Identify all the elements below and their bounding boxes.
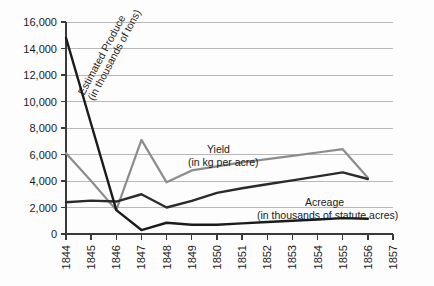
annotation-estimated-produce: Estimated Produce(in thousands of tons) bbox=[75, 2, 143, 102]
x-tick-label: 1847 bbox=[135, 245, 147, 269]
annotation-acreage-title: Acreage bbox=[305, 196, 344, 208]
annotation-yield-title: Yield bbox=[207, 143, 230, 155]
x-tick-label: 1853 bbox=[286, 245, 298, 269]
x-tick-label: 1849 bbox=[186, 245, 198, 269]
line-chart: 02,0004,0006,0008,00010,00012,00014,0001… bbox=[0, 0, 434, 286]
x-tick-label: 1844 bbox=[60, 245, 72, 269]
y-tick-label: 4,000 bbox=[29, 175, 57, 187]
y-tick-label: 2,000 bbox=[29, 202, 57, 214]
x-tick-label: 1850 bbox=[211, 245, 223, 269]
x-tick-label: 1855 bbox=[337, 245, 349, 269]
x-tick-label: 1845 bbox=[85, 245, 97, 269]
x-tick-label: 1856 bbox=[362, 245, 374, 269]
y-tick-labels: 02,0004,0006,0008,00010,00012,00014,0001… bbox=[23, 16, 57, 240]
y-tick-label: 14,000 bbox=[23, 43, 57, 55]
x-tick-label: 1857 bbox=[387, 245, 399, 269]
y-tick-label: 16,000 bbox=[23, 16, 57, 28]
y-tick-label: 0 bbox=[51, 228, 57, 240]
x-tick-label: 1851 bbox=[236, 245, 248, 269]
chart-canvas: 02,0004,0006,0008,00010,00012,00014,0001… bbox=[0, 0, 434, 286]
x-tick-label: 1846 bbox=[110, 245, 122, 269]
y-tick-label: 6,000 bbox=[29, 149, 57, 161]
x-tick-labels: 1844184518461847184818491850185118521853… bbox=[60, 245, 399, 269]
x-tick-label: 1848 bbox=[161, 245, 173, 269]
annotation-yield-unit: (in kg per acre) bbox=[188, 156, 259, 168]
x-tick-label: 1852 bbox=[261, 245, 273, 269]
x-axis bbox=[66, 234, 393, 240]
y-tick-label: 8,000 bbox=[29, 122, 57, 134]
y-tick-label: 12,000 bbox=[23, 69, 57, 81]
y-tick-label: 10,000 bbox=[23, 96, 57, 108]
annotation-acreage-unit: (in thousands of statute acres) bbox=[257, 209, 398, 221]
x-tick-label: 1854 bbox=[312, 245, 324, 269]
